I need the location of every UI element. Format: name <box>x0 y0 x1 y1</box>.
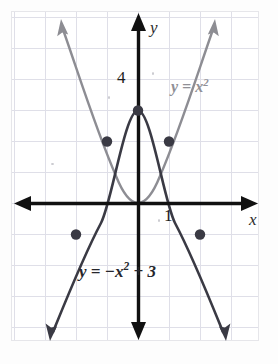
graph-figure: 4 1 y x y = x2 y = −x2 + 3 <box>0 0 278 364</box>
grid-lines <box>12 12 258 340</box>
dark-curve-equation-suffix: + 3 <box>129 262 156 281</box>
scan-speck <box>152 72 154 75</box>
x-axis-tick-label-1: 1 <box>164 207 173 224</box>
gray-curve-equation-text: y = x <box>171 78 203 95</box>
y-axis-name-label: y <box>150 19 158 36</box>
scan-speck <box>158 219 160 222</box>
marked-point-right-outer <box>195 229 205 239</box>
x-axis-right-arrow-icon <box>241 196 258 211</box>
scan-speck <box>108 96 110 99</box>
y-axis-up-arrow-icon <box>131 13 146 31</box>
dark-curve-equation-label: y = −x2 + 3 <box>79 261 156 280</box>
dark-curve-equation-text: y = −x <box>79 262 124 281</box>
scan-speck <box>51 163 54 165</box>
marked-point-left-inner <box>102 136 112 146</box>
gray-curve-left-arrow-icon <box>57 19 68 36</box>
gray-curve-right-arrow-icon <box>208 19 219 36</box>
x-axis-name-label: x <box>249 211 257 228</box>
y-axis-down-arrow-icon <box>131 322 146 340</box>
marked-point-vertex <box>133 105 143 115</box>
y-axis <box>131 13 146 340</box>
x-axis-left-arrow-icon <box>14 196 31 211</box>
x-axis <box>14 196 258 211</box>
y-axis-tick-label-4: 4 <box>117 69 126 86</box>
marked-point-left-outer <box>71 229 81 239</box>
coordinate-plane <box>0 0 278 364</box>
gray-curve-equation-label: y = x2 <box>171 77 209 95</box>
marked-point-right-inner <box>164 136 174 146</box>
gray-curve-exponent: 2 <box>203 76 208 88</box>
